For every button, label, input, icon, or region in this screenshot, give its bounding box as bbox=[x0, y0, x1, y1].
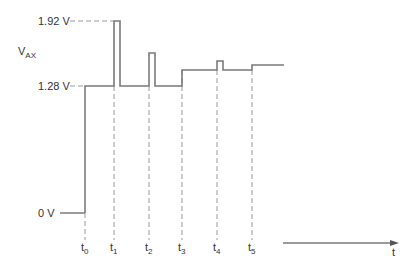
level-label-1-92: 1.92 V bbox=[38, 15, 70, 27]
level-label-1-28: 1.28 V bbox=[38, 80, 70, 92]
time-label-t2: t2 bbox=[145, 241, 153, 256]
time-label-t1: t1 bbox=[110, 241, 118, 256]
x-axis-label: t bbox=[392, 246, 395, 258]
time-label-t4: t4 bbox=[213, 241, 221, 256]
time-label-t3: t3 bbox=[178, 241, 186, 256]
voltage-trace bbox=[85, 21, 284, 213]
time-label-t0: t0 bbox=[81, 241, 89, 256]
time-label-t5: t5 bbox=[248, 241, 256, 256]
waveform-diagram: 1.92 V 1.28 V 0 V VAX t0 t1 t2 t3 t4 t5 … bbox=[0, 0, 409, 267]
level-label-0: 0 V bbox=[38, 207, 55, 219]
y-axis-label: VAX bbox=[18, 45, 37, 60]
